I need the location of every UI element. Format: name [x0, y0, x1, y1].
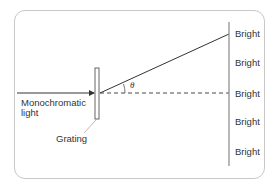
angle-theta-label: θ — [130, 80, 134, 90]
fringe-label-3: Bright — [235, 89, 260, 99]
grating-label: Grating — [56, 134, 87, 144]
fringe-label-4: Bright — [235, 117, 260, 127]
fringe-label-5: Bright — [235, 147, 260, 157]
fringe-label-1: Bright — [235, 29, 260, 39]
grating — [95, 68, 99, 119]
fringe-label-2: Bright — [235, 58, 260, 68]
source-label-line2: light — [21, 108, 38, 118]
angle-arc — [124, 84, 126, 93]
diffracted-ray — [100, 34, 229, 93]
grating-leader-line — [84, 119, 97, 133]
